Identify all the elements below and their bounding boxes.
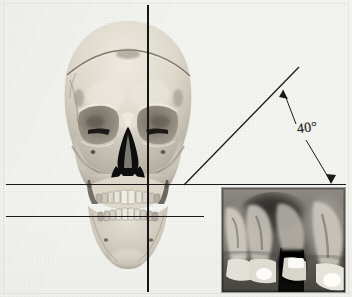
angle-label: 40° [296, 119, 318, 137]
periapical-radiograph-inset [222, 188, 345, 292]
anterior-skull-photograph [48, 18, 208, 276]
horizontal-upper-plane-line [6, 184, 346, 185]
maxilla [87, 176, 169, 210]
figure-root: 40° Frontal skull photograph with cephal… [0, 0, 352, 297]
horizontal-lower-plane-line [6, 216, 204, 217]
vertical-midline [147, 5, 149, 292]
